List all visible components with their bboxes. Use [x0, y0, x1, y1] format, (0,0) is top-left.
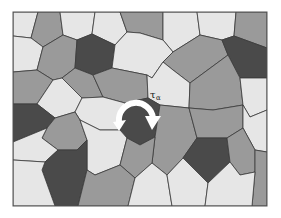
- grains: [13, 12, 267, 206]
- label-subscript: α: [156, 94, 161, 102]
- grain-structure-diagram: τ α: [0, 0, 281, 218]
- grain: [78, 165, 135, 206]
